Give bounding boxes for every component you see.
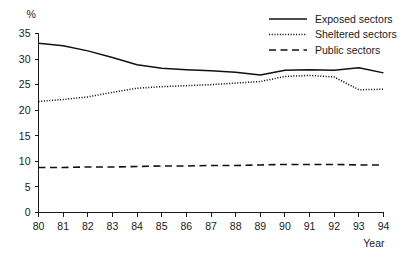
- series-line-public-sectors: [39, 164, 384, 167]
- x-tick-label-81: 81: [57, 220, 69, 232]
- x-tick-label-90: 90: [279, 220, 291, 232]
- chart-container: 05101520253035%8081828384858687888990919…: [0, 0, 404, 258]
- y-tick-label-35: 35: [19, 27, 31, 39]
- x-tick-label-85: 85: [156, 220, 168, 232]
- axis-lines: [39, 34, 384, 213]
- legend-label-sheltered-sectors: Sheltered sectors: [315, 28, 397, 40]
- x-tick-label-82: 82: [82, 220, 94, 232]
- x-tick-label-80: 80: [33, 220, 45, 232]
- x-axis-label: Year: [363, 237, 385, 249]
- y-tick-label-20: 20: [19, 104, 31, 116]
- y-axis-label: %: [27, 8, 36, 20]
- series-line-sheltered-sectors: [39, 75, 384, 101]
- x-tick-label-92: 92: [328, 220, 340, 232]
- y-tick-label-15: 15: [19, 130, 31, 142]
- x-tick-label-91: 91: [304, 220, 316, 232]
- y-tick-label-0: 0: [25, 206, 31, 218]
- legend: Exposed sectorsSheltered sectorsPublic s…: [269, 13, 397, 56]
- y-tick-label-10: 10: [19, 155, 31, 167]
- x-tick-label-86: 86: [181, 220, 193, 232]
- y-tick-label-5: 5: [25, 181, 31, 193]
- x-tick-label-89: 89: [254, 220, 266, 232]
- x-tick-label-93: 93: [353, 220, 365, 232]
- legend-label-public-sectors: Public sectors: [315, 44, 380, 56]
- series-group: [39, 43, 384, 167]
- legend-label-exposed-sectors: Exposed sectors: [315, 13, 393, 25]
- y-tick-label-30: 30: [19, 53, 31, 65]
- x-tick-label-88: 88: [230, 220, 242, 232]
- axes: [39, 34, 384, 213]
- y-axis: 05101520253035%: [19, 8, 39, 218]
- line-chart: 05101520253035%8081828384858687888990919…: [0, 0, 404, 258]
- x-tick-label-83: 83: [107, 220, 119, 232]
- y-tick-label-25: 25: [19, 78, 31, 90]
- x-axis: 808182838485868788899091929394Year: [33, 213, 390, 249]
- x-tick-label-94: 94: [378, 220, 390, 232]
- x-tick-label-84: 84: [131, 220, 143, 232]
- x-tick-label-87: 87: [205, 220, 217, 232]
